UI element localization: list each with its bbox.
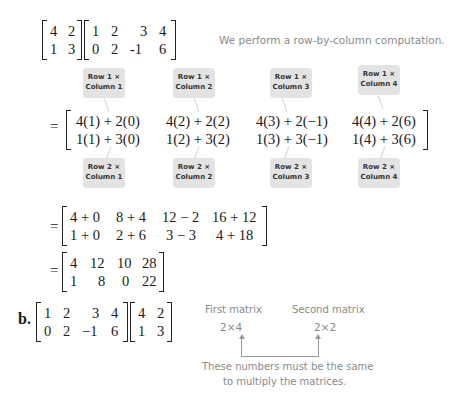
cell: 3 − 3 xyxy=(166,227,196,243)
cell: 1(4) + 3(6) xyxy=(352,131,416,147)
cell: 12 − 2 xyxy=(162,209,199,225)
cell: 28 xyxy=(142,255,157,271)
cell: 1 xyxy=(50,41,57,57)
cell: 2 xyxy=(111,41,118,57)
cell: 4(3) + 2(−1) xyxy=(256,113,328,129)
row-by-column-note: We perform a row-by-column computation. xyxy=(219,34,445,46)
cell: 22 xyxy=(142,273,157,289)
part-b-label: b. xyxy=(18,310,31,328)
cell: 1 + 0 xyxy=(70,227,100,243)
cell: 6 xyxy=(111,323,118,339)
cell: 2 + 6 xyxy=(116,227,146,243)
cell: 8 xyxy=(98,273,105,289)
cell: 4 xyxy=(50,23,57,39)
cell: 2 xyxy=(63,323,70,339)
cell: 4 + 18 xyxy=(216,227,253,243)
cell: 4(1) + 2(0) xyxy=(76,113,140,129)
cell: 4 xyxy=(138,305,145,321)
cell: 3 xyxy=(92,305,99,321)
equals-sign: = xyxy=(50,118,58,135)
cell: 16 + 12 xyxy=(212,209,256,225)
cell: −1 xyxy=(82,323,97,339)
cell: 8 + 4 xyxy=(116,209,146,225)
same-numbers-note-line1: These numbers must be the same xyxy=(202,361,373,372)
second-matrix-dims: 2×2 xyxy=(314,321,336,333)
matrix-a-right: 1 2 3 4 0 2 -1 6 xyxy=(84,20,176,60)
cell: 2 xyxy=(63,305,70,321)
same-numbers-note-line2: to multiply the matrices. xyxy=(223,376,346,387)
cell: 0 xyxy=(92,41,99,57)
cell: 6 xyxy=(159,41,166,57)
equals-sign: = xyxy=(50,218,58,235)
cell: 1 xyxy=(92,23,99,39)
callout-row1-col2: Row 1 ×Column 2 xyxy=(173,68,215,98)
cell: 2 xyxy=(68,23,75,39)
cell: 4(4) + 2(6) xyxy=(352,113,416,129)
cell: 4 xyxy=(111,305,118,321)
cell: 1 xyxy=(70,273,77,289)
callout-row2-col1: Row 2 ×Column 1 xyxy=(83,158,125,188)
cell: 1(3) + 3(−1) xyxy=(256,131,328,147)
callout-row1-col1: Row 1 ×Column 1 xyxy=(83,68,125,98)
arrow-up-icon xyxy=(315,334,321,339)
callout-row1-col3: Row 1 ×Column 3 xyxy=(270,68,312,98)
callout-row1-col4: Row 1 ×Column 4 xyxy=(358,65,400,95)
cell: 4 + 0 xyxy=(70,209,100,225)
cell: 1(2) + 3(2) xyxy=(166,131,230,147)
matrix-result: 4 12 10 28 1 8 0 22 xyxy=(62,252,164,292)
equals-sign: = xyxy=(50,262,58,279)
cell: 12 xyxy=(90,255,105,271)
cell: 1 xyxy=(44,305,51,321)
callout-row2-col2: Row 2 ×Column 2 xyxy=(173,158,215,188)
cell: 1(1) + 3(0) xyxy=(76,131,140,147)
matrix-a-left: 4 2 1 3 xyxy=(42,20,82,60)
matrix-b-right: 4 2 1 3 xyxy=(130,302,172,342)
cell: 4 xyxy=(159,23,166,39)
cell: 2 xyxy=(111,23,118,39)
cell: 3 xyxy=(157,323,164,339)
dimension-connector xyxy=(241,338,319,357)
cell: 4(2) + 2(2) xyxy=(166,113,230,129)
cell: 0 xyxy=(44,323,51,339)
matrix-step2: 4 + 0 8 + 4 12 − 2 16 + 12 1 + 0 2 + 6 3… xyxy=(62,206,267,246)
first-matrix-dims: 2×4 xyxy=(220,321,242,333)
first-matrix-label: First matrix xyxy=(205,304,262,315)
cell: 3 xyxy=(68,41,75,57)
callout-row2-col3: Row 2 ×Column 3 xyxy=(270,158,312,188)
arrow-up-icon xyxy=(239,334,245,339)
cell: 4 xyxy=(70,255,77,271)
cell: 3 xyxy=(140,23,147,39)
matrix-b-left: 1 2 3 4 0 2 −1 6 xyxy=(36,302,128,342)
cell: 10 xyxy=(117,255,132,271)
second-matrix-label: Second matrix xyxy=(292,304,365,315)
cell: 2 xyxy=(157,305,164,321)
callout-row2-col4: Row 2 ×Column 4 xyxy=(358,158,400,188)
matrix-step1: 4(1) + 2(0) 4(2) + 2(2) 4(3) + 2(−1) 4(4… xyxy=(66,110,428,150)
cell: -1 xyxy=(130,41,142,57)
cell: 1 xyxy=(138,323,145,339)
cell: 0 xyxy=(122,273,129,289)
